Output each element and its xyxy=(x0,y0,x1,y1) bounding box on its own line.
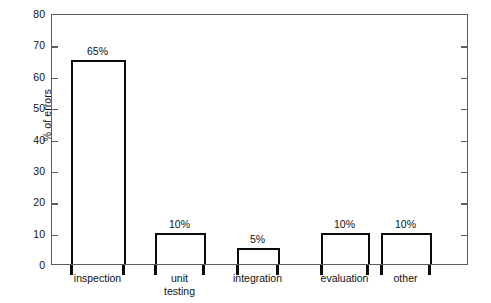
y-axis-tick-label: 70 xyxy=(22,40,45,50)
y-axis-tick-mark xyxy=(461,203,467,204)
bar xyxy=(381,233,432,264)
y-axis-tick-mark xyxy=(52,141,58,142)
y-axis-tick-label: 50 xyxy=(22,103,45,113)
y-axis-tick-mark xyxy=(52,78,58,79)
y-axis-tick-label: 0 xyxy=(22,260,45,270)
x-axis-category-label: other xyxy=(350,272,461,285)
y-axis-tick-mark xyxy=(461,141,467,142)
bar-value-label: 65% xyxy=(50,46,145,57)
bar xyxy=(155,233,206,264)
y-axis-tick-mark xyxy=(52,172,58,173)
y-axis-tick-label: 20 xyxy=(22,197,45,207)
y-axis-tick-label: 10 xyxy=(22,229,45,239)
bar-chart: % of errors 01020304050607080 65%10%5%10… xyxy=(0,0,491,303)
y-axis-tick-mark xyxy=(52,109,58,110)
y-axis-tick-mark xyxy=(461,109,467,110)
y-axis-tick-mark xyxy=(461,46,467,47)
y-axis-tick-mark xyxy=(52,235,58,236)
bar xyxy=(71,60,126,264)
y-axis-tick-label: 80 xyxy=(22,9,45,19)
y-axis-tick-label: 30 xyxy=(22,166,45,176)
y-axis-tick-label: 60 xyxy=(22,72,45,82)
bar-value-label: 10% xyxy=(134,219,225,230)
y-axis-tick-mark xyxy=(461,78,467,79)
y-axis-tick-label: 40 xyxy=(22,135,45,145)
bar-value-label: 5% xyxy=(216,234,299,245)
bar xyxy=(321,233,370,264)
bar xyxy=(237,248,280,264)
y-axis-tick-mark xyxy=(461,172,467,173)
bar-value-label: 10% xyxy=(360,219,451,230)
y-axis-tick-mark xyxy=(461,235,467,236)
y-axis-tick-mark xyxy=(52,203,58,204)
